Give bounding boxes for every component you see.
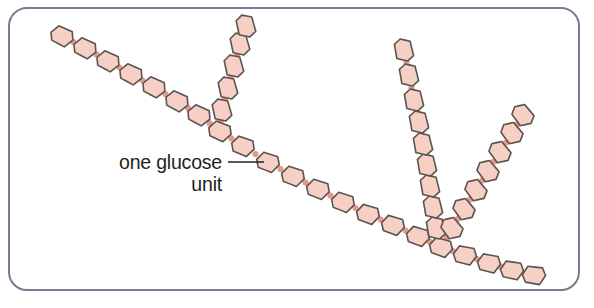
glucose-unit-shape xyxy=(211,97,232,123)
glucose-unit xyxy=(413,131,434,157)
glucose-unit-shape xyxy=(423,194,444,220)
glucose-unit-shape xyxy=(417,152,438,178)
glucose-unit-shape xyxy=(499,259,525,280)
glucose-unit-shape xyxy=(476,252,502,274)
glucose-unit-shape xyxy=(217,75,238,101)
glucose-unit-shape xyxy=(394,37,415,63)
glucose-unit xyxy=(521,265,547,286)
glucose-unit-shape xyxy=(223,53,244,79)
glucose-unit-shape xyxy=(404,87,425,113)
glucose-unit xyxy=(476,252,502,274)
glucose-unit xyxy=(423,194,444,220)
glucose-unit-shape xyxy=(329,190,357,214)
glucose-unit-shape xyxy=(420,173,441,199)
annotation-line-1: one glucose xyxy=(119,151,222,173)
glucose-unit xyxy=(394,37,415,63)
glucose-unit xyxy=(409,109,430,135)
glucose-unit-shape xyxy=(354,202,381,226)
glucose-unit xyxy=(452,244,478,266)
glucose-unit-shape xyxy=(413,131,434,157)
glucose-unit xyxy=(399,62,420,88)
glucose-unit-shape xyxy=(521,265,547,286)
glucose-unit-shape xyxy=(452,244,478,266)
glucose-unit xyxy=(235,13,256,39)
glucose-units-layer xyxy=(48,13,547,285)
glucose-unit xyxy=(404,87,425,113)
glucose-unit xyxy=(329,190,357,214)
glucose-unit xyxy=(499,259,525,280)
glucose-unit-shape xyxy=(279,164,307,188)
glucose-unit xyxy=(304,177,332,201)
glucose-unit xyxy=(417,152,438,178)
glucose-unit-shape xyxy=(379,213,406,237)
glycosidic-bond xyxy=(252,151,258,157)
glucose-unit xyxy=(354,202,381,226)
glucose-unit-shape xyxy=(304,177,332,201)
glucose-unit-shape xyxy=(409,109,430,135)
annotation-group: one glucose unit xyxy=(119,151,264,195)
glucose-unit xyxy=(211,97,232,123)
glycogen-structure-figure: one glucose unit xyxy=(0,0,594,308)
glucose-unit xyxy=(48,23,76,49)
glucose-unit-shape xyxy=(235,13,256,39)
glucose-unit-shape xyxy=(48,23,76,49)
glucose-unit xyxy=(420,173,441,199)
glucose-unit xyxy=(223,53,244,79)
polysaccharide-diagram: one glucose unit xyxy=(0,0,594,308)
glucose-unit xyxy=(379,213,406,237)
glucose-unit xyxy=(217,75,238,101)
glucose-unit xyxy=(279,164,307,188)
annotation-line-2: unit xyxy=(191,173,222,195)
glucose-unit-shape xyxy=(399,62,420,88)
